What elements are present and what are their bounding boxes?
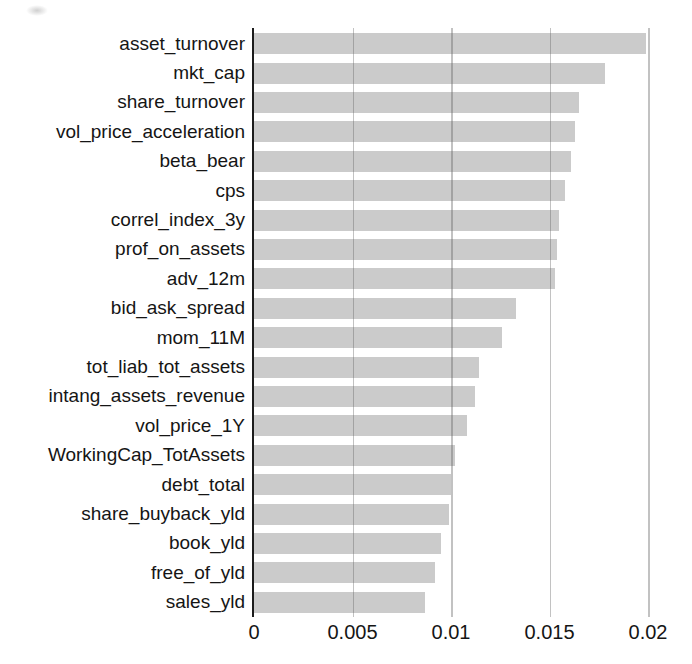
category-label-mom_11M: mom_11M bbox=[0, 323, 245, 352]
category-label-vol_price_1Y: vol_price_1Y bbox=[0, 411, 245, 440]
bar-adv_12m bbox=[254, 268, 555, 289]
bar-beta_bear bbox=[254, 151, 571, 172]
category-label-tot_liab_tot_assets: tot_liab_tot_assets bbox=[0, 352, 245, 381]
category-label-WorkingCap_TotAssets: WorkingCap_TotAssets bbox=[0, 441, 245, 470]
x-tick-label-0.015: 0.015 bbox=[524, 621, 574, 644]
category-label-free_of_yld: free_of_yld bbox=[0, 558, 245, 587]
x-tick-label-0.02: 0.02 bbox=[629, 621, 668, 644]
category-label-intang_assets_revenue: intang_assets_revenue bbox=[0, 382, 245, 411]
bar-bid_ask_spread bbox=[254, 298, 516, 319]
bar-tot_liab_tot_assets bbox=[254, 357, 479, 378]
feature-importance-bar-chart: asset_turnovermkt_capshare_turnovervol_p… bbox=[0, 0, 692, 664]
category-label-debt_total: debt_total bbox=[0, 470, 245, 499]
bar-asset_turnover bbox=[254, 33, 646, 54]
category-label-cps: cps bbox=[0, 176, 245, 205]
bar-share_turnover bbox=[254, 92, 579, 113]
x-tick-label-0.01: 0.01 bbox=[432, 621, 471, 644]
scan-artifact-smudge bbox=[26, 5, 48, 16]
bar-share_buyback_yld bbox=[254, 504, 449, 525]
bar-vol_price_1Y bbox=[254, 415, 467, 436]
bar-book_yld bbox=[254, 533, 441, 554]
category-label-share_buyback_yld: share_buyback_yld bbox=[0, 499, 245, 528]
bar-correl_index_3y bbox=[254, 210, 559, 231]
category-label-share_turnover: share_turnover bbox=[0, 88, 245, 117]
gridline-0.01 bbox=[451, 28, 453, 617]
bar-mom_11M bbox=[254, 327, 502, 348]
bar-sales_yld bbox=[254, 592, 425, 613]
bar-cps bbox=[254, 180, 565, 201]
gridline-0.02 bbox=[648, 28, 650, 617]
category-label-sales_yld: sales_yld bbox=[0, 588, 245, 617]
bar-mkt_cap bbox=[254, 63, 605, 84]
category-label-vol_price_acceleration: vol_price_acceleration bbox=[0, 117, 245, 146]
category-label-correl_index_3y: correl_index_3y bbox=[0, 205, 245, 234]
category-label-bid_ask_spread: bid_ask_spread bbox=[0, 294, 245, 323]
category-label-mkt_cap: mkt_cap bbox=[0, 58, 245, 87]
bar-WorkingCap_TotAssets bbox=[254, 445, 455, 466]
plot-area: asset_turnovermkt_capshare_turnovervol_p… bbox=[0, 0, 692, 664]
y-axis-spine bbox=[252, 28, 254, 617]
bar-vol_price_acceleration bbox=[254, 121, 575, 142]
category-label-beta_bear: beta_bear bbox=[0, 147, 245, 176]
category-label-prof_on_assets: prof_on_assets bbox=[0, 235, 245, 264]
x-tick-label-0: 0 bbox=[248, 621, 259, 644]
gridline-0.005 bbox=[353, 28, 355, 617]
category-label-adv_12m: adv_12m bbox=[0, 264, 245, 293]
bar-prof_on_assets bbox=[254, 239, 557, 260]
x-tick-label-0.005: 0.005 bbox=[327, 621, 377, 644]
bar-free_of_yld bbox=[254, 562, 435, 583]
category-label-asset_turnover: asset_turnover bbox=[0, 29, 245, 58]
gridline-0.015 bbox=[550, 28, 552, 617]
bar-intang_assets_revenue bbox=[254, 386, 475, 407]
category-label-book_yld: book_yld bbox=[0, 529, 245, 558]
